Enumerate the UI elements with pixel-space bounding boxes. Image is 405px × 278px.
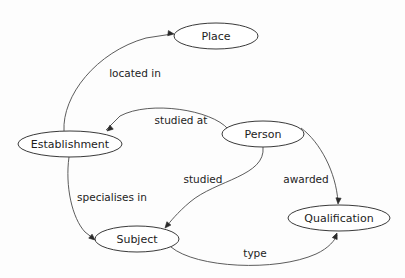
edge-label-awarded: awarded	[283, 173, 328, 185]
node-place[interactable]: Place	[174, 23, 258, 49]
arrowhead-type	[332, 232, 339, 240]
edge-label-type: type	[243, 247, 266, 259]
nodes-layer: PlaceEstablishmentPersonQualificationSub…	[18, 23, 390, 252]
edge-label-located-in: located in	[109, 67, 161, 79]
diagram-canvas: PlaceEstablishmentPersonQualificationSub…	[0, 0, 405, 278]
edge-studied	[166, 147, 263, 227]
node-person[interactable]: Person	[222, 121, 304, 147]
edge-label-studied-at: studied at	[155, 114, 208, 126]
node-subject[interactable]: Subject	[95, 226, 179, 252]
edge-label-studied: studied	[184, 173, 223, 185]
edge-label-specialises-in: specialises in	[77, 191, 147, 203]
node-label-person: Person	[245, 128, 282, 141]
arrowhead-awarded	[335, 198, 341, 204]
node-establishment[interactable]: Establishment	[18, 131, 122, 157]
node-qualification[interactable]: Qualification	[288, 205, 390, 231]
concept-map-diagram: PlaceEstablishmentPersonQualificationSub…	[0, 0, 405, 278]
arrowhead-located-in	[168, 31, 175, 37]
node-label-qualification: Qualification	[304, 212, 373, 225]
node-label-subject: Subject	[116, 233, 158, 246]
node-label-place: Place	[201, 30, 230, 43]
node-label-establishment: Establishment	[31, 138, 110, 151]
edge-awarded	[301, 128, 338, 202]
